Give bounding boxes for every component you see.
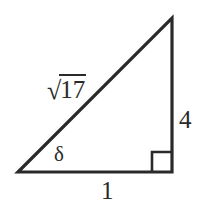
angle-delta-label: δ: [54, 144, 64, 165]
radicand-value: 17: [59, 74, 86, 102]
hypotenuse-label: √17: [46, 74, 86, 104]
right-angle-marker-icon: [152, 152, 172, 172]
triangle-drawing: [0, 0, 200, 201]
base-side-label: 1: [101, 178, 114, 201]
triangle-outline: [18, 18, 172, 172]
right-triangle-figure: √17 4 1 δ: [0, 0, 200, 201]
radical-group: √17: [46, 74, 86, 104]
vertical-side-label: 4: [179, 107, 192, 132]
